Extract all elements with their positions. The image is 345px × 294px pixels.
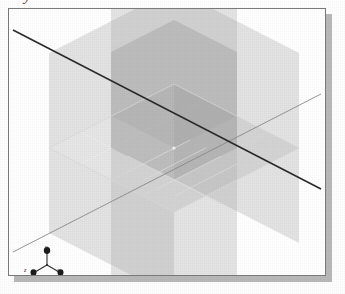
origin-marker <box>172 146 175 149</box>
3d-scene[interactable] <box>9 9 325 275</box>
gizmo-hub <box>46 264 48 266</box>
plane-intersection-core <box>111 20 237 180</box>
gizmo-stem-z <box>35 265 47 272</box>
viewport-frame[interactable]: y z x <box>8 8 326 276</box>
scanned-figure-page: y <box>0 0 345 294</box>
gizmo-marker-z <box>31 269 37 275</box>
gizmo-label-y: y <box>45 244 48 250</box>
orientation-gizmo[interactable]: y z x <box>23 243 71 276</box>
isometric-scene-svg <box>9 9 325 275</box>
gizmo-label-z: z <box>24 267 26 273</box>
gizmo-label-x: x <box>57 267 60 273</box>
caption-fragment-text: y <box>24 0 31 4</box>
caption-clip: y <box>0 0 345 9</box>
